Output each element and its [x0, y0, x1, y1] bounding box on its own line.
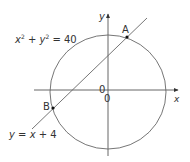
rhs: = 40 [49, 34, 76, 45]
x-axis-label: x [174, 95, 179, 104]
line-equation-label: y = x + 4 [9, 130, 57, 140]
equals: = [15, 129, 30, 140]
point-b-label: B [43, 102, 50, 112]
point-a [125, 35, 128, 38]
y-axis-label: y [99, 12, 105, 22]
rest: + 4 [36, 129, 57, 140]
origin-label-2: 0 [104, 94, 110, 104]
plus: + [25, 34, 40, 45]
point-a-label: A [122, 25, 129, 35]
point-b [51, 106, 54, 109]
circle-equation-label: x2 + y2 = 40 [15, 34, 77, 45]
